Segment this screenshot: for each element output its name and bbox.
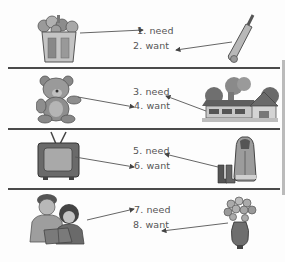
trash-can-icon[interactable] (34, 12, 84, 64)
worksheet: 1. need 2. want 3. need 4. want 5. need … (0, 0, 285, 262)
label-7-need[interactable]: 7. need (134, 204, 171, 215)
label-3-need[interactable]: 3. need (133, 86, 170, 97)
label-8-want[interactable]: 8. want (133, 219, 169, 230)
label-1-need[interactable]: 1. need (137, 25, 174, 36)
row-divider (8, 188, 280, 190)
flower-vase-icon[interactable] (223, 196, 257, 250)
arrow-bear-to-want (78, 97, 134, 107)
house-icon[interactable] (200, 76, 280, 124)
arrow-trash-to-need (80, 30, 143, 33)
label-4-want[interactable]: 4. want (134, 100, 170, 111)
label-5-need[interactable]: 5. need (133, 145, 170, 156)
arrow-people-to-need (87, 209, 134, 220)
cricket-bat-icon[interactable] (222, 12, 258, 64)
television-icon[interactable] (36, 130, 82, 182)
parent-child-reading-icon[interactable] (26, 192, 90, 248)
label-2-want[interactable]: 2. want (133, 40, 169, 51)
arrow-tv-to-want (75, 157, 134, 167)
arrow-vase-to-want (162, 223, 228, 231)
row-divider (8, 67, 280, 69)
winter-coat-boots-icon[interactable] (216, 135, 258, 185)
page-edge-shadow (282, 60, 285, 195)
label-6-want[interactable]: 6. want (134, 160, 170, 171)
arrow-coat-to-need (165, 154, 218, 167)
teddy-bear-icon[interactable] (36, 74, 82, 124)
